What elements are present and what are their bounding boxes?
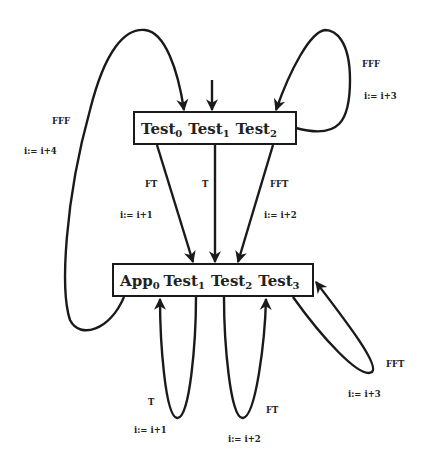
edge-fft-top	[238, 145, 273, 262]
label-fff-left: FFF	[52, 116, 70, 126]
label-ft-bottom: FT	[266, 405, 279, 415]
edge-ft-bottom-loop	[224, 297, 266, 418]
label-ft-top: FT	[145, 179, 158, 189]
label-inc2-bottom: i:= i+2	[228, 434, 261, 444]
label-inc2-top: i:= i+2	[264, 210, 297, 220]
label-inc3-top: i:= i+3	[364, 91, 397, 101]
label-fff-right: FFF	[362, 59, 380, 69]
label-t-bottom: T	[148, 397, 155, 407]
bottom-state-box: App0Test1Test2Test3	[113, 264, 313, 296]
edge-t-bottom-loop	[160, 297, 196, 418]
state-diagram: Test0Test1Test2 App0Test1Test2Test3 FFF …	[0, 0, 434, 465]
label-fft-bottom: FFT	[386, 359, 405, 369]
label-fft-top: FFT	[270, 179, 289, 189]
label-t-top: T	[202, 179, 209, 189]
edge-ft-top	[157, 145, 193, 262]
label-inc1-bottom: i:= i+1	[134, 425, 167, 435]
label-inc4: i:= i+4	[24, 146, 57, 156]
top-box-label: Test0Test1Test2	[141, 120, 277, 139]
label-inc3-bottom: i:= i+3	[348, 389, 381, 399]
top-state-box: Test0Test1Test2	[134, 112, 296, 144]
label-inc1-top: i:= i+1	[120, 210, 153, 220]
